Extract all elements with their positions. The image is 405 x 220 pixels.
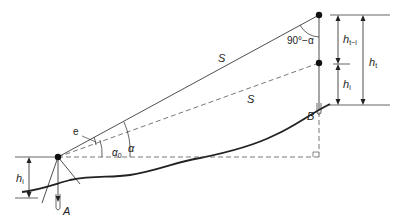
label-alpha0: α0 — [112, 147, 122, 159]
arrow-head — [361, 15, 366, 21]
label-h-t-minus-i: ht−i — [343, 33, 357, 46]
arrow-head-up — [27, 157, 32, 163]
label-point-b: B — [307, 110, 314, 122]
label-complement-angle: 90°−α — [287, 35, 314, 46]
instrument-point — [55, 154, 61, 160]
label-s-bottom: S — [247, 93, 255, 105]
slope-line-s-top — [58, 15, 319, 157]
label-point-a: A — [62, 205, 70, 217]
arrow-head — [336, 15, 341, 21]
arrow-head-down — [27, 192, 32, 198]
target-middle-point — [316, 60, 322, 66]
ground-profile — [22, 104, 330, 192]
arrow-head — [336, 99, 341, 105]
right-angle-mark — [313, 152, 319, 157]
arrow-head — [336, 64, 341, 70]
angle-arc-alpha0 — [100, 140, 102, 157]
target-top-point — [316, 12, 322, 18]
label-hi-left: hi — [16, 172, 24, 185]
label-hi-right: hi — [343, 78, 351, 91]
label-h-t: ht — [369, 56, 377, 69]
arrow-head — [361, 99, 366, 105]
label-e: e — [73, 126, 79, 137]
trig-leveling-diagram: S S 90°−α α α0 e A B hi ht−i hi ht — [0, 0, 405, 220]
label-alpha: α — [128, 142, 135, 154]
label-s-top: S — [218, 52, 226, 64]
slope-line-s-bottom — [58, 63, 319, 157]
arrow-head — [336, 58, 341, 64]
e-leader-line — [82, 136, 96, 142]
